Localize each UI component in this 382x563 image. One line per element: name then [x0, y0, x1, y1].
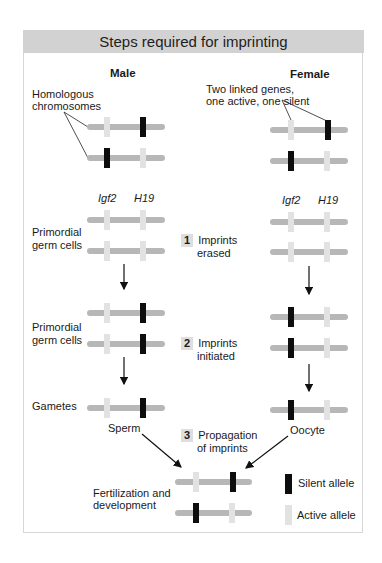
active-allele — [324, 307, 330, 327]
active-allele — [104, 303, 110, 323]
pgc-label-1a: Primordial — [32, 226, 82, 239]
silent-allele — [230, 472, 236, 492]
silent-allele — [140, 303, 146, 323]
female-pgc-initiated-2 — [270, 345, 348, 351]
step-number: 2 — [181, 337, 193, 350]
step-1-line2: erased — [197, 247, 231, 260]
zygote-chromosome-1 — [175, 479, 252, 485]
sperm-label: Sperm — [108, 422, 140, 435]
active-allele — [104, 398, 110, 418]
active-allele — [104, 210, 110, 230]
step-2: 2Imprints — [181, 337, 237, 350]
male-chromosome-1 — [87, 124, 165, 130]
step-number: 3 — [181, 429, 193, 442]
female-chromosome-1 — [270, 127, 348, 133]
step-number: 1 — [181, 234, 193, 247]
active-allele — [324, 212, 330, 232]
active-allele — [140, 210, 146, 230]
female-pgc-erased-1 — [270, 219, 348, 225]
step-3-line2: of imprints — [197, 442, 248, 455]
active-allele — [324, 242, 330, 262]
silent-allele — [325, 120, 331, 140]
gene-label-h19-female: H19 — [318, 194, 338, 207]
male-chromosome-2 — [87, 155, 165, 161]
male-pgc-initiated-1 — [87, 310, 165, 316]
female-pgc-initiated-1 — [270, 314, 348, 320]
active-allele — [104, 117, 110, 137]
zygote-chromosome-2 — [175, 510, 252, 516]
sperm-chromosome — [87, 405, 165, 411]
gene-label-igf2-male: Igf2 — [98, 192, 116, 205]
silent-allele — [288, 307, 294, 327]
male-pgc-initiated-2 — [87, 341, 165, 347]
oocyte-chromosome — [270, 407, 348, 413]
gene-label-igf2-female: Igf2 — [282, 194, 300, 207]
legend-active-swatch — [285, 505, 292, 525]
gametes-label: Gametes — [32, 400, 77, 413]
active-allele — [324, 151, 330, 171]
active-allele — [288, 212, 294, 232]
legend-active-label: Active allele — [297, 509, 356, 522]
active-allele — [324, 400, 330, 420]
silent-allele — [140, 117, 146, 137]
silent-allele — [140, 398, 146, 418]
active-allele — [104, 334, 110, 354]
step-3: 3Propagation — [181, 429, 257, 442]
female-chromosome-2 — [270, 158, 348, 164]
gene-label-h19-male: H19 — [134, 192, 154, 205]
step-1: 1Imprints — [181, 234, 237, 247]
active-allele — [104, 241, 110, 261]
pgc-label-2a: Primordial — [32, 321, 82, 334]
pgc-label-1b: germ cells — [32, 239, 82, 252]
male-pgc-erased-2 — [87, 248, 165, 254]
oocyte-label: Oocyte — [290, 424, 325, 437]
fertilization-label-2: development — [93, 499, 156, 512]
active-allele — [193, 472, 199, 492]
active-allele — [140, 241, 146, 261]
active-allele — [229, 503, 235, 523]
silent-allele — [193, 503, 199, 523]
silent-allele — [104, 148, 110, 168]
silent-allele — [140, 334, 146, 354]
step-2-line2: initiated — [197, 350, 235, 363]
legend-silent-label: Silent allele — [298, 477, 354, 490]
active-allele — [288, 120, 294, 140]
pgc-label-2b: germ cells — [32, 334, 82, 347]
silent-allele — [288, 151, 294, 171]
male-pgc-erased-1 — [87, 217, 165, 223]
legend-silent-swatch — [285, 474, 292, 494]
active-allele — [288, 242, 294, 262]
silent-allele — [288, 400, 294, 420]
female-pgc-erased-2 — [270, 249, 348, 255]
silent-allele — [288, 338, 294, 358]
active-allele — [324, 338, 330, 358]
active-allele — [140, 148, 146, 168]
